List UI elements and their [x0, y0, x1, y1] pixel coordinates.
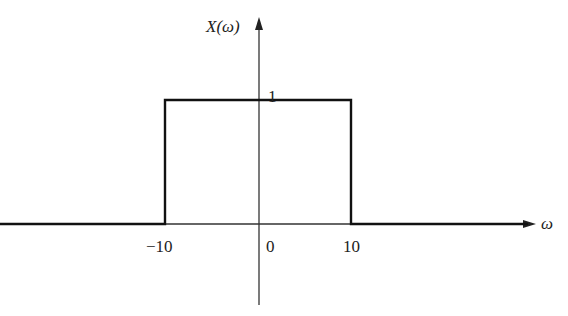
- height-label: 1: [268, 88, 277, 105]
- tick-label-0: 0: [266, 238, 275, 255]
- plot-canvas: [0, 0, 568, 316]
- y-axis: [255, 17, 263, 305]
- tick-label-10: 10: [343, 238, 360, 255]
- y-axis-label: X(ω): [206, 18, 240, 35]
- tick-label-neg10: −10: [146, 238, 173, 255]
- x-axis-label: ω: [541, 215, 553, 232]
- rect-pulse: [0, 100, 528, 224]
